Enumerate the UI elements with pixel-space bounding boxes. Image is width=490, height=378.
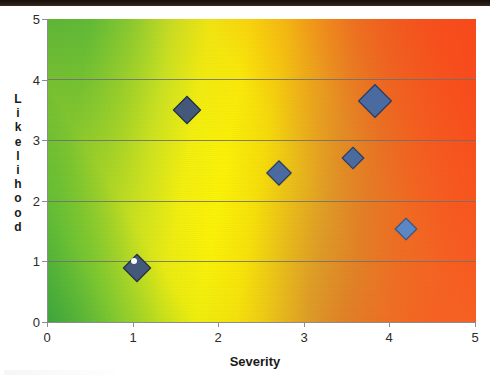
x-axis-line	[47, 322, 475, 323]
y-tick-3	[42, 140, 47, 141]
gridline-y1	[48, 261, 476, 262]
y-tick-4	[42, 80, 47, 81]
y-tick-5	[42, 19, 47, 20]
y-axis-title-letter: k	[10, 120, 26, 134]
y-axis-title-letter: d	[10, 220, 26, 234]
y-axis-title-letter: h	[10, 177, 26, 191]
gridline-y2	[48, 201, 476, 202]
y-tick-label-5: 5	[22, 13, 40, 26]
scan-artifact	[4, 370, 116, 375]
y-tick-0	[42, 322, 47, 323]
y-axis-title-letter: e	[10, 135, 26, 149]
risk-matrix-chart: 0 1 2 3 4 5 5 4 3 2 1 0 Severity L i k e…	[0, 0, 490, 378]
x-tick-3	[304, 322, 305, 327]
y-tick-1	[42, 261, 47, 262]
x-tick-5	[475, 322, 476, 327]
scan-grain-overlay	[48, 19, 476, 322]
y-axis-title-letter: o	[10, 206, 26, 220]
marker-highlight-dot	[131, 258, 137, 264]
x-tick-2	[218, 322, 219, 327]
y-tick-label-0: 0	[22, 316, 40, 329]
y-tick-label-4: 4	[22, 74, 40, 87]
gridline-y4	[48, 79, 476, 80]
x-axis-title: Severity	[175, 354, 335, 369]
y-axis-title: L i k e l i h o o d	[10, 92, 26, 234]
x-tick-1	[133, 322, 134, 327]
y-axis-title-letter: L	[10, 92, 26, 106]
gridline-y3	[48, 140, 476, 141]
y-tick-2	[42, 201, 47, 202]
y-tick-label-1: 1	[22, 255, 40, 268]
y-axis-title-letter: i	[10, 163, 26, 177]
x-tick-label-2: 2	[205, 331, 231, 344]
x-tick-4	[389, 322, 390, 327]
y-axis-title-letter: l	[10, 149, 26, 163]
x-tick-label-3: 3	[291, 331, 317, 344]
x-tick-label-1: 1	[120, 331, 146, 344]
y-axis-title-letter: i	[10, 106, 26, 120]
x-tick-0	[47, 322, 48, 327]
x-tick-label-5: 5	[462, 331, 488, 344]
plot-area	[47, 19, 476, 322]
y-axis-title-letter: o	[10, 191, 26, 205]
x-tick-label-4: 4	[376, 331, 402, 344]
x-tick-label-0: 0	[34, 331, 60, 344]
